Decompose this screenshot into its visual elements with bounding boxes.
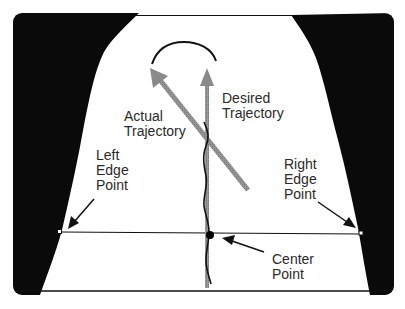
left-edge-point-marker xyxy=(58,230,62,234)
center-point-dot xyxy=(206,231,214,239)
desired-trajectory-label: Desired Trajectory xyxy=(222,91,284,121)
label-line: Trajectory xyxy=(124,124,186,139)
label-line: Desired xyxy=(222,91,284,106)
actual-trajectory-label: Actual Trajectory xyxy=(124,109,186,139)
label-line: Actual xyxy=(124,109,186,124)
label-line: Trajectory xyxy=(222,106,284,121)
label-line: Point xyxy=(284,187,317,202)
trajectory-diagram xyxy=(0,0,405,309)
label-line: Point xyxy=(96,178,129,193)
label-line: Right xyxy=(284,157,317,172)
right-edge-point-label: Right Edge Point xyxy=(284,157,317,202)
label-line: Left xyxy=(96,148,129,163)
center-point-label: Center Point xyxy=(272,252,314,282)
label-line: Edge xyxy=(96,163,129,178)
label-line: Point xyxy=(272,267,314,282)
left-edge-point-label: Left Edge Point xyxy=(96,148,129,193)
label-line: Edge xyxy=(284,172,317,187)
right-edge-point-marker xyxy=(359,231,363,235)
label-line: Center xyxy=(272,252,314,267)
